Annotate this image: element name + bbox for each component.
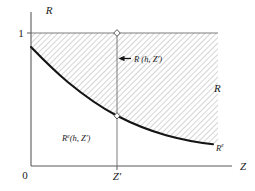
re-point-label-args: (h, Z′) [70,133,91,143]
y-tick-label-one: 1 [18,27,24,39]
origin-label: 0 [22,169,28,181]
y-axis-label: R [45,4,53,16]
re-curve-end-sup: e [221,142,224,148]
plot-canvas: R Z 0 1 Z′ R (h, Z′) Re(h, Z′) R Re [0,0,255,191]
x-tick-label-z-prime: Z′ [113,170,122,182]
r-annotation-label: R (h, Z′) [133,54,162,64]
re-point-label: Re(h, Z′) [61,133,91,143]
shaded-region [31,33,218,145]
re-curve-end-label: Re [215,142,224,153]
region-label: R [213,82,221,94]
figure-container: R Z 0 1 Z′ R (h, Z′) Re(h, Z′) R Re [0,0,255,191]
x-axis-label: Z [240,160,247,172]
